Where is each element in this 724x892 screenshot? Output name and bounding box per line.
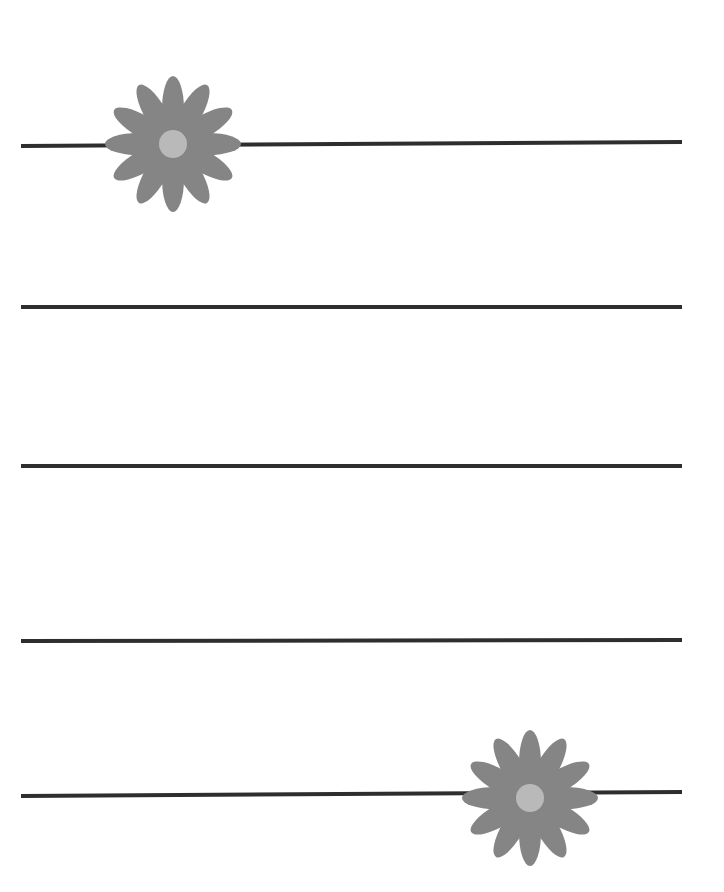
flower-center-disc bbox=[516, 784, 544, 812]
flower-center-disc bbox=[159, 130, 187, 158]
lined-paper-canvas bbox=[0, 0, 724, 892]
paper-background bbox=[0, 0, 724, 892]
ruled-line-4 bbox=[21, 640, 682, 641]
